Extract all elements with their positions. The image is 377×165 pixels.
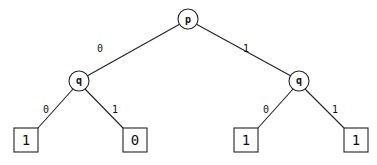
edge-label-left-q-left: 0 (43, 104, 49, 115)
edge-label-p-right: 1 (243, 43, 249, 54)
decision-tree-diagram: 0 1 0 1 0 1 p q q 1 0 1 1 (0, 0, 377, 165)
leaf-label-2: 1 (242, 132, 250, 148)
edge-label-right-q-left: 0 (263, 104, 269, 115)
node-q-right: q (289, 71, 309, 91)
node-q-right-label: q (296, 75, 302, 86)
leaf-label-1: 0 (131, 132, 139, 148)
edge-label-right-q-right: 1 (332, 104, 338, 115)
node-p-label: p (185, 14, 191, 25)
node-p: p (178, 9, 198, 29)
leaf-node-2: 1 (234, 128, 258, 152)
node-q-left-label: q (76, 75, 82, 86)
node-q-left: q (69, 71, 89, 91)
leaf-label-3: 1 (352, 132, 360, 148)
leaf-node-0: 1 (14, 128, 38, 152)
leaf-label-0: 1 (22, 132, 30, 148)
edge-right-q-to-leaf-3 (305, 89, 344, 128)
edge-label-left-q-right: 1 (112, 104, 118, 115)
leaf-node-3: 1 (344, 128, 368, 152)
leaf-node-1: 0 (123, 128, 147, 152)
edge-label-p-left: 0 (97, 43, 103, 54)
